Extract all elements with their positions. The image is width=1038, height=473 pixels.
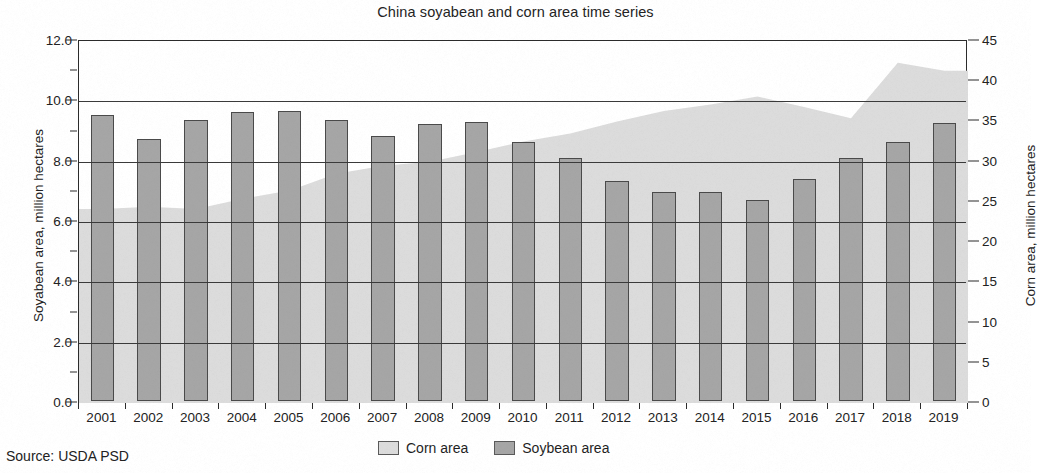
x-axis-tickmark (218, 402, 219, 409)
y-axis-left-minor-tickmark (70, 190, 77, 191)
x-axis-label-2010: 2010 (507, 410, 537, 425)
y-axis-left-tickmark (66, 100, 77, 101)
source-note: Source: USDA PSD (6, 448, 129, 464)
x-axis-tickmark (967, 402, 968, 409)
y-axis-right-tickmark (968, 120, 979, 121)
y-axis-left-tickmark (66, 281, 77, 282)
y-axis-left-minor-tickmark (70, 251, 77, 252)
x-axis-tickmark (359, 402, 360, 409)
y-axis-left-tickmark (66, 160, 77, 161)
x-axis-label-2009: 2009 (461, 410, 491, 425)
gridline-8.0 (79, 162, 966, 163)
x-axis-label-2002: 2002 (133, 410, 163, 425)
x-axis-label-2019: 2019 (929, 410, 959, 425)
y-axis-right-tickmark (968, 200, 979, 201)
y-axis-right-tick-35: 35 (982, 113, 1010, 128)
y-axis-right-tickmark (968, 80, 979, 81)
x-axis-tickmark (265, 402, 266, 409)
x-axis-tickmark (125, 402, 126, 409)
y-axis-left-tickmark (66, 402, 77, 403)
y-axis-right-tickmark (968, 281, 979, 282)
legend-label-soybean-area: Soybean area (522, 440, 609, 456)
y-axis-right-tick-25: 25 (982, 193, 1010, 208)
y-axis-right-tick-5: 5 (982, 354, 1010, 369)
x-axis-label-2011: 2011 (555, 410, 584, 425)
x-axis-tickmark (546, 402, 547, 409)
gridline-4.0 (79, 282, 966, 283)
x-axis-tickmark (639, 402, 640, 409)
y-axis-left-minor-tickmark (70, 371, 77, 372)
x-axis-label-2005: 2005 (274, 410, 304, 425)
y-axis-right-tick-40: 40 (982, 73, 1010, 88)
x-axis-label-2014: 2014 (695, 410, 725, 425)
x-axis-tickmark (827, 402, 828, 409)
y-axis-left-tickmark (66, 341, 77, 342)
x-axis-label-2004: 2004 (227, 410, 257, 425)
x-axis: 2001200220032004200520062007200820092010… (78, 402, 967, 432)
x-axis-tickmark (499, 402, 500, 409)
x-axis-tickmark (406, 402, 407, 409)
y-axis-right-tick-15: 15 (982, 274, 1010, 289)
y-axis-right-tick-30: 30 (982, 153, 1010, 168)
x-axis-tickmark (686, 402, 687, 409)
gridlines (79, 41, 966, 401)
y-axis-right-tickmark (968, 361, 979, 362)
y-axis-left-minor-tickmark (70, 130, 77, 131)
x-axis-tickmark (873, 402, 874, 409)
x-axis-tickmark (312, 402, 313, 409)
plot-area (78, 40, 967, 402)
gridline-10.0 (79, 101, 966, 102)
x-axis-tickmark (780, 402, 781, 409)
x-axis-label-2016: 2016 (788, 410, 818, 425)
y-axis-right-tickmark (968, 40, 979, 41)
x-axis-label-2012: 2012 (601, 410, 631, 425)
y-axis-right-tickmark (968, 402, 979, 403)
x-axis-tickmark (78, 402, 79, 409)
legend-swatch-soybean-area (494, 441, 515, 455)
y-axis-right-tick-20: 20 (982, 234, 1010, 249)
legend-item-soybean-area[interactable]: Soybean area (494, 440, 609, 456)
y-axis-left-labels: 0.02.04.06.08.010.012.0 (16, 40, 72, 402)
x-axis-tickmark (920, 402, 921, 409)
y-axis-right-tickmark (968, 160, 979, 161)
y-axis-right-tickmark (968, 241, 979, 242)
y-axis-right-tick-45: 45 (982, 33, 1010, 48)
x-axis-label-2008: 2008 (414, 410, 444, 425)
x-axis-label-2017: 2017 (835, 410, 865, 425)
gridline-2.0 (79, 343, 966, 344)
x-axis-label-2018: 2018 (882, 410, 912, 425)
y-axis-right-tickmark (968, 321, 979, 322)
x-axis-label-2006: 2006 (320, 410, 350, 425)
legend-label-corn-area: Corn area (406, 440, 468, 456)
x-axis-label-2007: 2007 (367, 410, 397, 425)
x-axis-tickmark (593, 402, 594, 409)
gridline-6.0 (79, 222, 966, 223)
x-axis-label-2003: 2003 (180, 410, 210, 425)
x-axis-label-2001: 2001 (86, 410, 116, 425)
legend-swatch-corn-area (378, 441, 399, 455)
y-axis-left-tickmark (66, 221, 77, 222)
y-axis-right-labels: 051015202530354045 (982, 40, 1022, 402)
chart-title: China soyabean and corn area time series (0, 4, 1031, 20)
y-axis-left-tickmark (66, 40, 77, 41)
legend-item-corn-area[interactable]: Corn area (378, 440, 468, 456)
y-axis-left-minor-tickmark (70, 311, 77, 312)
x-axis-tickmark (172, 402, 173, 409)
y-axis-right-tick-0: 0 (982, 395, 1010, 410)
x-axis-tickmark (452, 402, 453, 409)
y-axis-right-title: Corn area, million hectares (1023, 96, 1038, 356)
y-axis-right-tick-10: 10 (982, 314, 1010, 329)
y-axis-left-minor-tickmark (70, 70, 77, 71)
x-axis-label-2013: 2013 (648, 410, 678, 425)
x-axis-label-2015: 2015 (741, 410, 771, 425)
legend: Corn area Soybean area (378, 440, 609, 456)
x-axis-tickmark (733, 402, 734, 409)
